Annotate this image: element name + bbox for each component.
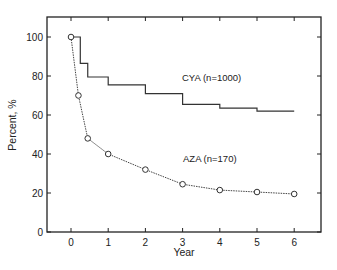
y-tick-label: 40 xyxy=(32,149,44,160)
series-group xyxy=(68,34,297,197)
y-tick-label: 100 xyxy=(26,32,43,43)
x-tick-label: 5 xyxy=(254,237,260,248)
aza-marker xyxy=(68,34,74,40)
aza-marker xyxy=(217,187,223,193)
plot-border xyxy=(47,17,321,232)
aza-marker xyxy=(180,181,186,187)
x-tick-label: 0 xyxy=(68,237,74,248)
aza-series-label: AZA (n=170) xyxy=(183,153,237,164)
aza-marker xyxy=(85,136,91,142)
aza-marker xyxy=(76,93,82,99)
survival-chart: 0123456020406080100 Year Percent, % CYA … xyxy=(0,0,337,270)
axis-ticks: 0123456020406080100 xyxy=(26,17,321,248)
x-tick-label: 4 xyxy=(217,237,223,248)
x-axis-title: Year xyxy=(173,246,195,258)
y-tick-label: 60 xyxy=(32,110,44,121)
aza-line xyxy=(71,37,294,194)
x-tick-label: 2 xyxy=(143,237,149,248)
aza-marker xyxy=(143,167,149,173)
aza-marker xyxy=(105,151,111,157)
plot-frame xyxy=(47,17,321,232)
y-axis-title: Percent, % xyxy=(6,99,18,150)
y-tick-label: 80 xyxy=(32,71,44,82)
y-tick-label: 20 xyxy=(32,188,44,199)
cya-series-label: CYA (n=1000) xyxy=(182,72,241,83)
aza-marker xyxy=(291,191,297,197)
x-tick-label: 6 xyxy=(291,237,297,248)
y-tick-label: 0 xyxy=(37,227,43,238)
aza-marker xyxy=(254,189,260,195)
x-tick-label: 1 xyxy=(105,237,111,248)
